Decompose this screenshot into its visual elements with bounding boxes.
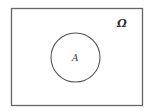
venn-diagram: Ω A <box>0 0 154 111</box>
set-a-label: A <box>71 53 79 63</box>
universe-label: Ω <box>116 17 127 30</box>
